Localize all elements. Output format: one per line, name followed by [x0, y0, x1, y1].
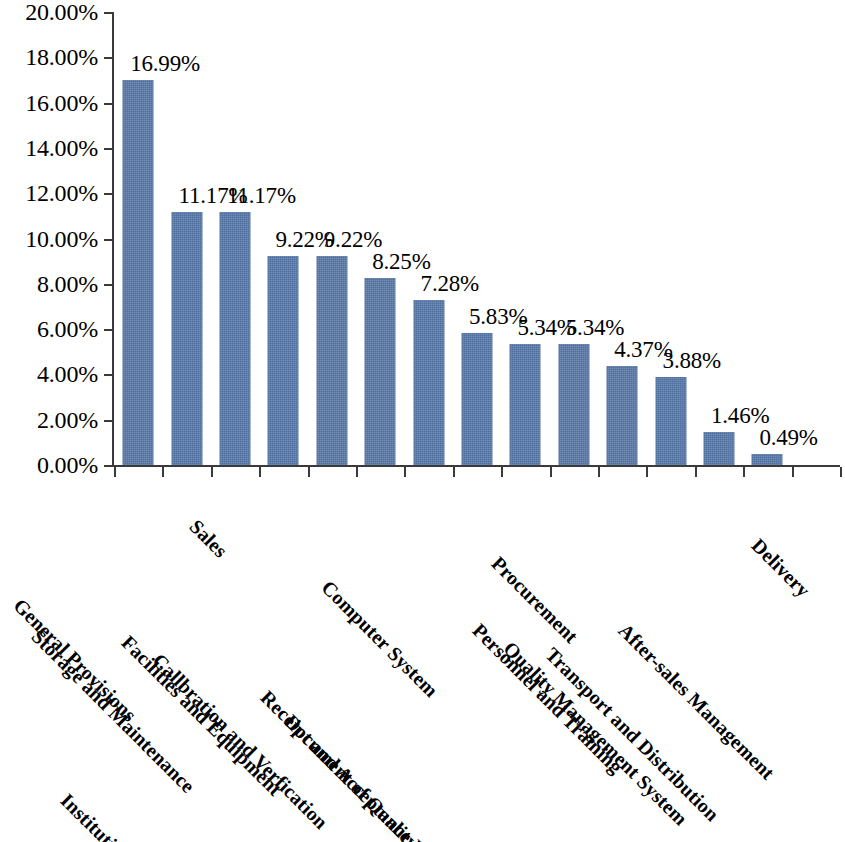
bar-group: [792, 12, 840, 465]
bar: [365, 278, 396, 465]
bar-group: 5.34%: [501, 12, 549, 465]
plot-area: 16.99%11.17%11.17%9.22%9.22%8.25%7.28%5.…: [114, 12, 840, 465]
y-axis-tick-label: 2.00%: [37, 405, 98, 435]
y-axis-tick-mark: [104, 103, 113, 105]
bar: [123, 80, 154, 465]
bar: [316, 256, 347, 465]
y-axis-tick-label: 16.00%: [25, 88, 98, 118]
bar-group: 7.28%: [404, 12, 452, 465]
bar: [268, 256, 299, 465]
bar-group: 0.49%: [743, 12, 791, 465]
category-label: Institutions and Quality Management Resp…: [57, 789, 393, 842]
bar-group: 8.25%: [356, 12, 404, 465]
y-axis-tick-label: 12.00%: [25, 178, 98, 208]
bar: [219, 212, 250, 465]
bar: [655, 377, 686, 465]
bar: [558, 344, 589, 465]
bar-group: 9.22%: [308, 12, 356, 465]
y-axis-tick-mark: [104, 329, 113, 331]
category-label: Storage and Maintenance: [27, 625, 199, 797]
y-axis-tick-mark: [104, 239, 113, 241]
category-label: Delivery: [748, 534, 815, 601]
bar-group: 5.83%: [453, 12, 501, 465]
y-axis-tick-mark: [104, 12, 113, 14]
y-axis-tick-label: 4.00%: [37, 359, 98, 389]
bar-chart: 20.00%18.00%16.00%14.00%12.00%10.00%8.00…: [0, 0, 845, 842]
y-axis-tick-label: 18.00%: [25, 42, 98, 72]
bar-group: 16.99%: [114, 12, 162, 465]
bar-group: 1.46%: [695, 12, 743, 465]
y-axis-tick-label: 6.00%: [37, 314, 98, 344]
bar-group: 11.17%: [162, 12, 210, 465]
bar-group: 5.34%: [550, 12, 598, 465]
category-label: After-sales Management: [614, 619, 779, 784]
bar: [461, 333, 492, 465]
category-label: Receipt and Acceptance Inspection: [257, 686, 485, 842]
bar: [752, 454, 783, 465]
bar: [171, 212, 202, 465]
bar-group: 11.17%: [211, 12, 259, 465]
y-axis-tick-label: 20.00%: [25, 0, 98, 27]
y-axis-tick-mark: [104, 148, 113, 150]
bar-group: 3.88%: [646, 12, 694, 465]
bar: [510, 344, 541, 465]
bar: [413, 300, 444, 465]
bar: [703, 432, 734, 465]
bar: [607, 366, 638, 465]
y-axis-tick-label: 14.00%: [25, 133, 98, 163]
category-label: Computer System: [318, 576, 443, 701]
y-axis-tick-label: 8.00%: [37, 269, 98, 299]
y-axis-tick-mark: [104, 374, 113, 376]
y-axis-tick-mark: [104, 193, 113, 195]
category-label: Sales: [185, 515, 232, 562]
y-axis-tick-label: 10.00%: [25, 224, 98, 254]
bar-group: 4.37%: [598, 12, 646, 465]
y-axis-tick-mark: [104, 57, 113, 59]
y-axis-tick-mark: [104, 284, 113, 286]
bar-group: 9.22%: [259, 12, 307, 465]
category-label: Procurement: [487, 552, 582, 647]
category-axis-labels: General ProvisionsStorage and Maintenanc…: [0, 467, 845, 842]
y-axis-tick-mark: [104, 420, 113, 422]
